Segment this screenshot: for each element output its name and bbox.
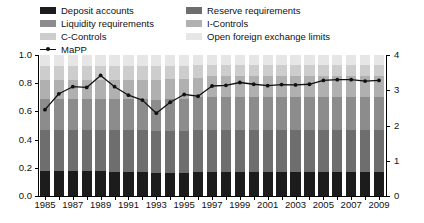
mapp-data-point <box>321 78 325 82</box>
mapp-data-point <box>335 78 339 82</box>
legend-item-reserve-requirements: Reserve requirements <box>186 4 390 17</box>
legend-swatch-i-controls <box>186 20 202 27</box>
y-axis-left-tick <box>35 196 38 197</box>
mapp-data-point <box>43 108 47 112</box>
y-axis-left-tick-label: 0.0 <box>2 191 32 200</box>
legend-swatch-c-controls <box>40 33 56 40</box>
mapp-data-point <box>266 84 270 88</box>
mapp-data-point <box>252 82 256 86</box>
mapp-data-point <box>196 94 200 98</box>
y-axis-right-tick-label: 3 <box>394 85 418 94</box>
mapp-data-point <box>363 79 367 83</box>
y-axis-right-tick <box>387 161 390 162</box>
mapp-data-point <box>182 93 186 97</box>
y-axis-right-tick-label: 2 <box>394 121 418 130</box>
mapp-data-point <box>141 98 145 102</box>
y-axis-right-tick-label: 1 <box>394 156 418 165</box>
y-axis-right-tick-label: 0 <box>394 191 418 200</box>
mapp-data-point <box>210 84 214 88</box>
mapp-data-point <box>280 83 284 87</box>
y-axis-left-tick-label: 0.8 <box>2 78 32 87</box>
legend-label-open-fx-limits: Open foreign exchange limits <box>207 30 330 43</box>
mapp-data-point <box>154 111 158 115</box>
y-axis-right-tick <box>387 196 390 197</box>
legend-swatch-reserve-requirements <box>186 7 202 14</box>
mapp-data-point <box>308 82 312 86</box>
y-axis-right-tick <box>387 126 390 127</box>
y-axis-left-tick-label: 1.0 <box>2 50 32 59</box>
mapp-data-point <box>238 81 242 85</box>
legend-line-marker-mapp <box>40 46 56 53</box>
mapp-data-point <box>85 86 89 90</box>
mapp-data-point <box>377 78 381 82</box>
legend-label-reserve-requirements: Reserve requirements <box>207 4 300 17</box>
legend-swatch-deposit-accounts <box>40 7 56 14</box>
mapp-data-point <box>113 85 117 89</box>
mapp-data-point <box>349 78 353 82</box>
y-axis-left-tick-label: 0.6 <box>2 106 32 115</box>
mapp-data-point <box>168 100 172 104</box>
chart-legend: Deposit accounts Reserve requirements Li… <box>40 4 390 56</box>
y-axis-left-tick-label: 0.4 <box>2 135 32 144</box>
mapp-data-point <box>294 83 298 87</box>
mapp-line-series <box>38 55 386 196</box>
plot-area <box>38 55 386 196</box>
legend-swatch-liquidity-requirements <box>40 20 56 27</box>
legend-swatch-open-fx-limits <box>186 33 202 40</box>
legend-item-open-fx-limits: Open foreign exchange limits <box>186 30 390 43</box>
mapp-data-point <box>224 83 228 87</box>
mapp-data-point <box>127 93 131 97</box>
legend-label-i-controls: I-Controls <box>207 17 248 30</box>
legend-label-deposit-accounts: Deposit accounts <box>61 4 134 17</box>
legend-item-c-controls: C-Controls <box>40 30 186 43</box>
legend-item-i-controls: I-Controls <box>186 17 390 30</box>
mapp-line-path <box>45 75 379 113</box>
y-axis-right-tick-label: 4 <box>394 50 418 59</box>
legend-item-liquidity-requirements: Liquidity requirements <box>40 17 186 30</box>
mapp-data-point <box>99 74 103 78</box>
y-axis-right-tick <box>387 55 390 56</box>
mapp-data-point <box>57 92 61 96</box>
x-axis-tick-label: 2009 <box>359 200 399 210</box>
chart-root: Deposit accounts Reserve requirements Li… <box>0 0 424 223</box>
legend-label-liquidity-requirements: Liquidity requirements <box>61 17 154 30</box>
y-axis-left-tick-label: 0.2 <box>2 163 32 172</box>
mapp-data-point <box>71 85 75 89</box>
legend-item-deposit-accounts: Deposit accounts <box>40 4 186 17</box>
y-axis-right-tick <box>387 90 390 91</box>
legend-label-c-controls: C-Controls <box>61 30 106 43</box>
